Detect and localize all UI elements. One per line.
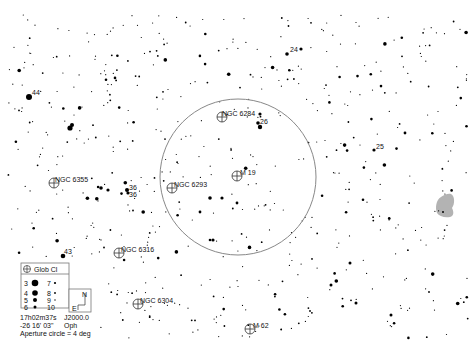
star — [218, 336, 219, 337]
star — [237, 286, 238, 287]
star — [425, 45, 426, 46]
star — [321, 194, 324, 197]
star — [254, 209, 255, 210]
star — [95, 137, 97, 139]
star — [308, 307, 310, 309]
object-label: M 62 — [253, 322, 269, 329]
star — [380, 71, 381, 72]
star — [56, 164, 57, 165]
star — [463, 301, 465, 303]
star — [278, 80, 279, 81]
star — [355, 22, 356, 23]
star — [18, 149, 19, 150]
star — [56, 193, 57, 194]
star — [356, 75, 359, 78]
star — [122, 319, 124, 321]
star — [450, 189, 453, 192]
star — [275, 166, 276, 167]
star — [108, 136, 109, 137]
star — [456, 105, 457, 106]
star — [239, 87, 241, 89]
star — [371, 214, 372, 215]
star — [289, 254, 290, 255]
star — [407, 73, 408, 74]
star — [395, 147, 398, 150]
star — [424, 28, 425, 29]
star — [295, 237, 296, 238]
star — [120, 192, 123, 195]
star — [147, 242, 148, 243]
star — [316, 233, 318, 235]
star — [453, 21, 455, 23]
star — [298, 83, 299, 84]
star — [68, 207, 69, 208]
star — [407, 249, 409, 251]
star — [425, 268, 426, 269]
star — [156, 129, 157, 130]
star — [29, 37, 31, 39]
star — [281, 329, 282, 330]
star — [132, 210, 134, 212]
star — [290, 242, 291, 243]
star — [363, 260, 364, 261]
star — [216, 241, 217, 242]
star — [72, 255, 73, 256]
star — [287, 78, 289, 80]
star — [145, 282, 146, 283]
star — [99, 251, 100, 252]
star — [344, 103, 345, 104]
star — [23, 67, 24, 68]
star — [334, 172, 335, 173]
star — [76, 138, 77, 139]
star — [224, 325, 226, 327]
star — [188, 246, 189, 247]
star — [187, 308, 188, 309]
star — [91, 225, 92, 226]
star — [261, 77, 262, 78]
star — [270, 209, 271, 210]
star — [311, 312, 313, 314]
star — [129, 210, 130, 211]
star — [104, 70, 105, 71]
star — [69, 55, 70, 56]
star — [284, 313, 287, 316]
star — [32, 247, 33, 248]
star — [40, 91, 41, 92]
star — [27, 45, 28, 46]
star — [245, 309, 246, 310]
star — [428, 86, 430, 88]
star — [398, 224, 399, 225]
star — [107, 84, 108, 85]
star — [105, 74, 106, 75]
star — [141, 210, 145, 214]
star — [281, 86, 282, 87]
star — [366, 202, 367, 203]
star — [341, 305, 344, 308]
star — [74, 247, 75, 248]
star-label: 36 — [129, 191, 137, 198]
star — [394, 40, 395, 41]
star — [380, 85, 383, 88]
star — [431, 27, 432, 28]
star — [198, 156, 199, 157]
star — [421, 56, 422, 57]
star — [62, 72, 63, 73]
star — [157, 257, 160, 260]
star — [420, 240, 421, 241]
star — [303, 158, 304, 159]
star — [339, 173, 340, 174]
star — [366, 273, 367, 274]
star — [137, 85, 138, 86]
star — [165, 211, 166, 212]
star — [113, 147, 114, 148]
star — [176, 161, 178, 163]
legend-mag: 9 — [47, 297, 51, 304]
star — [372, 90, 373, 91]
star — [349, 235, 350, 236]
star — [84, 142, 85, 143]
star — [338, 243, 339, 244]
star — [204, 63, 207, 66]
star — [190, 25, 191, 26]
star — [335, 279, 339, 283]
star — [404, 279, 405, 280]
